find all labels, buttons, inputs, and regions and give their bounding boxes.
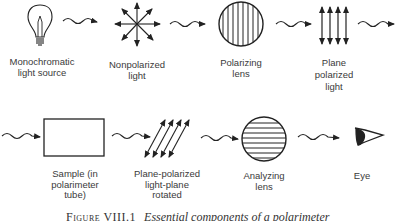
label-light-source: Monochromatic light source	[0, 57, 84, 78]
diagonal-arrows-icon	[145, 120, 189, 157]
analyzing-lens-icon	[240, 117, 290, 161]
polarizing-lens-icon	[219, 0, 263, 50]
label-eye: Eye	[332, 171, 392, 182]
vertical-arrows-icon	[322, 7, 346, 44]
label-rotated-light: Plane-polarized light-plane rotated	[122, 169, 212, 201]
sample-tube-icon	[44, 119, 104, 156]
label-sample: Sample (in polarimeter tube)	[35, 169, 115, 201]
caption-label: Figure VIII.1	[66, 210, 136, 221]
label-polarizing-lens: Polarizing lens	[201, 58, 281, 79]
label-plane-polarized-light: Plane polarized light	[294, 57, 374, 93]
caption-text: Essential components of a polarimeter	[144, 210, 329, 221]
label-nonpolarized-light: Nonpolarized light	[97, 60, 177, 81]
nonpolarized-star-icon	[115, 3, 160, 46]
light-bulb-icon	[28, 5, 52, 45]
eye-icon	[355, 128, 383, 145]
figure-caption: Figure VIII.1Essential components of a p…	[66, 210, 329, 221]
polarimeter-diagram: Monochromatic light source Nonpolarized …	[0, 0, 397, 221]
label-analyzing-lens: Analyzing lens	[224, 171, 304, 192]
